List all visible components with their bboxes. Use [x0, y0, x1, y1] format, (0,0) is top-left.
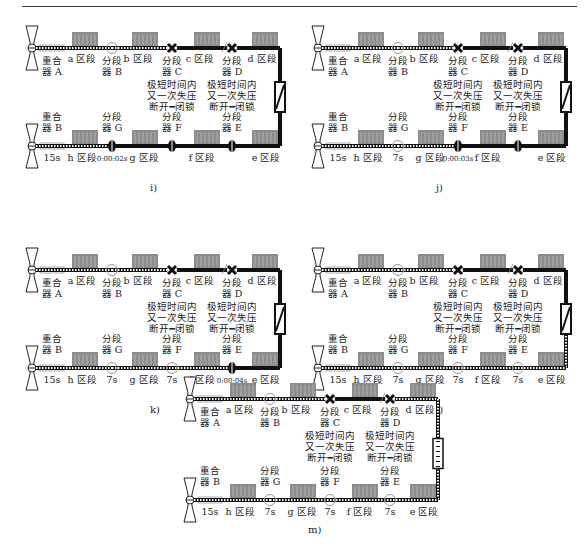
sectionalizer-closed-icon — [168, 140, 176, 152]
lockout-note: 极短时间内又一次失压断开━闭锁 — [147, 79, 197, 112]
recloser-a-label: 重合器 A — [42, 55, 62, 77]
section-label: g 区段 — [287, 506, 316, 517]
building-icon — [72, 130, 98, 144]
section-label: d 区段 — [405, 404, 434, 415]
building-icon — [410, 484, 436, 498]
switch-label: 分段器 G — [388, 333, 409, 355]
switch-label: 分段器 E — [222, 333, 242, 355]
top-feeder: 分段器 B分段器 C极短时间内又一次失压断开━闭锁分段器 D极短时间内又一次失压… — [184, 377, 438, 463]
recloser-time: 15s — [44, 152, 61, 163]
switch-label: 分段器 G — [260, 465, 281, 487]
switch-label: 分段器 B — [102, 277, 122, 299]
building-icon — [418, 352, 444, 366]
building-icon — [538, 32, 564, 46]
building-icon — [358, 352, 384, 366]
switch-label: 分段器 C — [448, 277, 468, 299]
lockout-note: 极短时间内又一次失压断开━闭锁 — [207, 301, 257, 334]
switch-label: 分段器 C — [320, 406, 340, 428]
top-feeder: 分段器 B分段器 C极短时间内又一次失压断开━闭锁分段器 D极短时间内又一次失压… — [26, 26, 280, 112]
panel-caption: m) — [308, 524, 321, 535]
section-label: c 区段 — [472, 275, 500, 286]
switch-label: 分段器 C — [448, 55, 468, 77]
section-label: e 区段 — [252, 152, 281, 163]
lockout-note: 极短时间内又一次失压断开━闭锁 — [305, 430, 355, 463]
sectionalizer-closed-icon — [108, 140, 116, 152]
building-icon — [132, 130, 158, 144]
lockout-note: 极短时间内又一次失压断开━闭锁 — [207, 79, 257, 112]
building-icon — [538, 130, 564, 144]
switch-label: 分段器 D — [222, 55, 243, 77]
building-icon — [252, 352, 278, 366]
panel-m: 分段器 B分段器 C极短时间内又一次失压断开━闭锁分段器 D极短时间内又一次失压… — [180, 372, 450, 557]
lockout-note: 极短时间内又一次失压断开━闭锁 — [433, 79, 483, 112]
switch-label: 分段器 D — [380, 406, 401, 428]
switch-label: 分段器 G — [102, 111, 123, 133]
switch-time: 7s — [325, 506, 336, 517]
building-icon — [194, 352, 220, 366]
sectionalizer-x-icon — [325, 394, 335, 404]
building-icon — [132, 32, 158, 46]
switch-label: 分段器 G — [388, 111, 409, 133]
switch-label: 分段器 F — [320, 465, 340, 487]
bottom-feeder: 分段器 G0:00:02s分段器 F分段器 E重合器 B15sh 区段g 区段f… — [26, 111, 280, 168]
sectionalizer-closed-icon — [228, 140, 236, 152]
building-icon — [252, 32, 278, 46]
switch-label: 分段器 D — [222, 277, 243, 299]
sectionalizer-x-icon — [513, 265, 523, 275]
lockout-note: 极短时间内又一次失压断开━闭锁 — [365, 430, 415, 463]
panel-caption: k) — [150, 404, 160, 415]
switch-label: 分段器 B — [102, 55, 122, 77]
section-label: c 区段 — [472, 53, 500, 64]
lockout-note: 极短时间内又一次失压断开━闭锁 — [147, 301, 197, 334]
section-label: b 区段 — [123, 275, 152, 286]
switch-time: 0:00:03s — [443, 155, 474, 163]
building-icon — [194, 130, 220, 144]
sectionalizer-closed-icon — [514, 140, 522, 152]
panel-caption: j) — [436, 182, 443, 193]
building-icon — [72, 32, 98, 46]
section-label: a 区段 — [354, 275, 383, 286]
building-icon — [418, 254, 444, 268]
recloser-a-label: 重合器 A — [200, 406, 220, 428]
building-icon — [352, 383, 378, 397]
switch-time: 7s — [393, 152, 404, 163]
building-icon — [358, 254, 384, 268]
building-icon — [230, 383, 256, 397]
sectionalizer-x-icon — [167, 43, 177, 53]
sectionalizer-closed-icon — [454, 140, 462, 152]
building-icon — [252, 254, 278, 268]
recloser-b-label: 重合器 B — [200, 465, 220, 487]
building-icon — [72, 254, 98, 268]
tie-switch-closed-icon — [561, 82, 571, 112]
section-label: a 区段 — [354, 53, 383, 64]
lockout-note: 极短时间内又一次失压断开━闭锁 — [493, 301, 543, 334]
switch-label: 分段器 F — [448, 111, 468, 133]
panel-j: 分段器 B分段器 C极短时间内又一次失压断开━闭锁分段器 D极短时间内又一次失压… — [308, 14, 578, 229]
switch-label: 分段器 E — [508, 111, 528, 133]
section-label: c 区段 — [186, 275, 214, 286]
switch-time: 7s — [453, 374, 464, 385]
building-icon — [418, 32, 444, 46]
section-label: a 区段 — [68, 53, 97, 64]
section-label: d 区段 — [533, 53, 562, 64]
bottom-feeder: 分段器 G7s分段器 F0:00:03s分段器 E重合器 B15sh 区段g 区… — [312, 111, 566, 168]
switch-label: 分段器 E — [380, 465, 400, 487]
section-label: f 区段 — [475, 374, 502, 385]
building-icon — [290, 383, 316, 397]
building-icon — [480, 254, 506, 268]
recloser-time: 15s — [330, 152, 347, 163]
recloser-a-label: 重合器 A — [328, 277, 348, 299]
sectionalizer-x-icon — [227, 265, 237, 275]
section-label: e 区段 — [538, 374, 567, 385]
building-icon — [418, 130, 444, 144]
switch-label: 分段器 E — [508, 333, 528, 355]
switch-time: 7s — [167, 374, 178, 385]
section-label: c 区段 — [186, 53, 214, 64]
lockout-note: 极短时间内又一次失压断开━闭锁 — [433, 301, 483, 334]
building-icon — [538, 254, 564, 268]
section-label: b 区段 — [409, 275, 438, 286]
section-label: d 区段 — [247, 275, 276, 286]
section-label: g 区段 — [129, 152, 158, 163]
building-icon — [352, 484, 378, 498]
switch-label: 分段器 E — [222, 111, 242, 133]
